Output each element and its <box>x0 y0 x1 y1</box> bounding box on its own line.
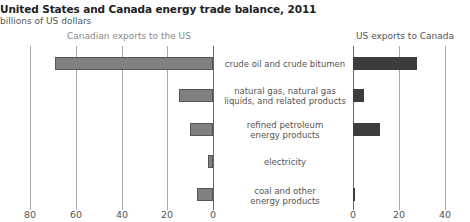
gridline-left-0 <box>213 46 214 210</box>
gridline-left-60 <box>76 46 77 210</box>
category-label-line: energy products <box>215 130 355 140</box>
left-panel-label: Canadian exports to the US <box>67 31 191 41</box>
category-label-natural-gas: natural gas, natural gas liquids, and re… <box>215 86 355 106</box>
tick-right-40: 40 <box>439 209 451 220</box>
category-label-crude-oil: crude oil and crude bitumen <box>215 59 355 69</box>
bar-canadian-exports-coal <box>197 188 213 201</box>
tick-right-0: 0 <box>350 209 356 220</box>
bar-us-exports-refined-petroleum <box>353 123 380 136</box>
gridline-left-80 <box>30 46 31 210</box>
tick-left-80: 80 <box>24 209 36 220</box>
tick-right-20: 20 <box>393 209 405 220</box>
category-label-line: energy products <box>215 196 355 206</box>
tick-left-20: 20 <box>161 209 173 220</box>
tick-left-60: 60 <box>70 209 82 220</box>
chart-subtitle: billions of US dollars <box>0 16 91 26</box>
category-label-line: electricity <box>215 157 355 167</box>
gridline-left-20 <box>167 46 168 210</box>
category-label-coal: coal and other energy products <box>215 186 355 206</box>
bar-canadian-exports-refined-petroleum <box>190 123 213 136</box>
chart-title: United States and Canada energy trade ba… <box>0 3 316 15</box>
bar-us-exports-crude-oil <box>353 57 417 70</box>
gridline-left-40 <box>122 46 123 210</box>
category-label-electricity: electricity <box>215 157 355 167</box>
bar-canadian-exports-natural-gas <box>179 89 213 102</box>
gridline-right-20 <box>399 46 400 210</box>
category-label-line: liquids, and related products <box>215 96 355 106</box>
category-label-refined-petroleum: refined petroleum energy products <box>215 120 355 140</box>
bar-canadian-exports-electricity <box>208 155 213 168</box>
category-label-line: refined petroleum <box>215 120 355 130</box>
bar-canadian-exports-crude-oil <box>55 57 213 70</box>
right-panel-label: US exports to Canada <box>356 31 454 41</box>
category-label-line: natural gas, natural gas <box>215 86 355 96</box>
tick-left-0: 0 <box>210 209 216 220</box>
category-label-line: coal and other <box>215 186 355 196</box>
category-label-line: crude oil and crude bitumen <box>215 59 355 69</box>
tick-left-40: 40 <box>116 209 128 220</box>
gridline-right-40 <box>445 46 446 210</box>
